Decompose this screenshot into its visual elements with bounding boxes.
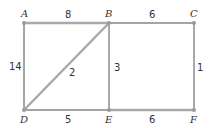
weight-b-d: 2	[69, 67, 75, 78]
weight-a-b: 8	[65, 9, 71, 20]
node-a	[22, 21, 26, 25]
edge-b-d	[24, 23, 109, 110]
node-c	[192, 21, 196, 25]
node-label-b: B	[104, 8, 112, 19]
node-label-f: F	[189, 114, 198, 125]
weight-e-f: 6	[149, 114, 155, 125]
node-label-e: E	[104, 114, 113, 125]
node-label-d: D	[19, 114, 28, 125]
node-f	[192, 108, 196, 112]
node-label-c: C	[190, 8, 198, 19]
weight-d-e: 5	[65, 114, 71, 125]
weight-c-f: 1	[197, 62, 203, 73]
node-label-a: A	[20, 8, 28, 19]
weight-b-c: 6	[149, 9, 155, 20]
graph-diagram: A B C D E F 8 6 14 2 3 1 5 6	[0, 0, 211, 128]
node-d	[22, 108, 26, 112]
weight-b-e: 3	[114, 62, 120, 73]
node-e	[107, 108, 111, 112]
node-b	[107, 21, 111, 25]
weight-a-d: 14	[9, 61, 22, 72]
